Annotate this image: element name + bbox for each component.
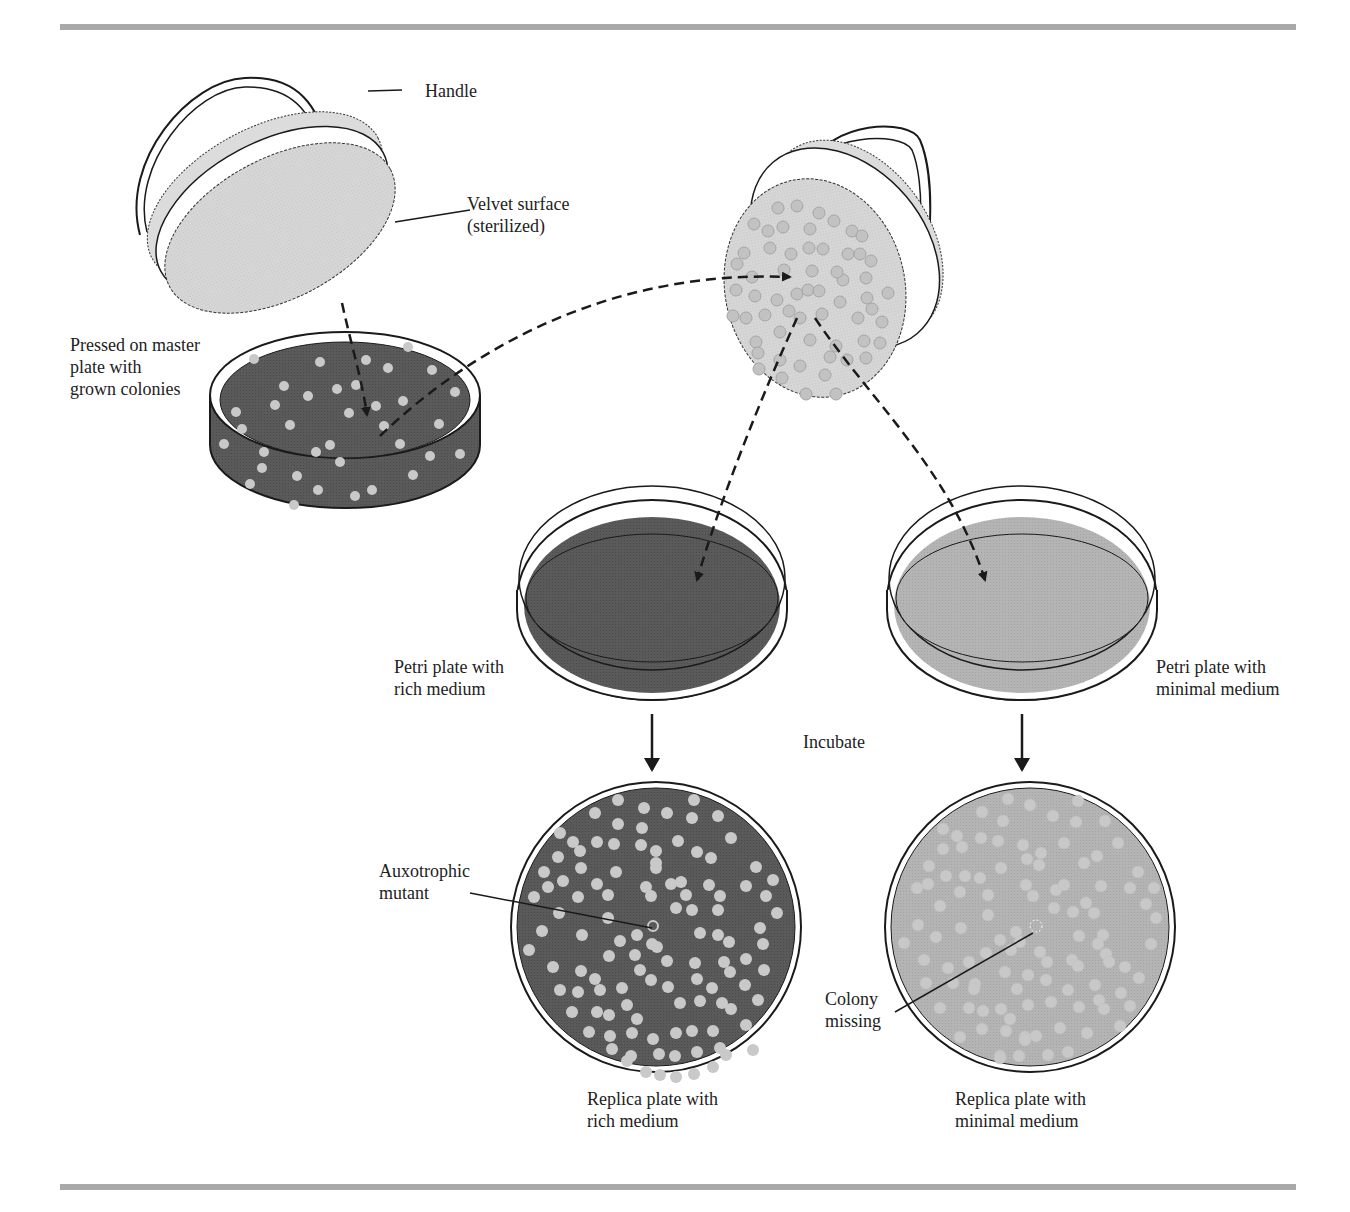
velvet-leader [395, 210, 470, 222]
petri-plate-rich [517, 486, 787, 700]
label-pressed-on-master: Pressed on master plate with grown colon… [70, 334, 200, 400]
label-replica-minimal: Replica plate with minimal medium [955, 1088, 1086, 1132]
label-replica-rich: Replica plate with rich medium [587, 1088, 718, 1132]
label-auxotrophic-mutant: Auxotrophic mutant [379, 860, 470, 904]
replica-plate-rich [511, 782, 801, 1083]
label-petri-minimal: Petri plate with minimal medium [1156, 656, 1280, 700]
petri-plate-minimal [887, 486, 1157, 700]
velvet-block-with-colonies [704, 107, 979, 414]
handle-leader [368, 90, 402, 91]
label-colony-missing: Colony missing [825, 988, 881, 1032]
label-handle: Handle [425, 80, 477, 102]
label-incubate: Incubate [803, 731, 865, 753]
label-petri-rich: Petri plate with rich medium [394, 656, 504, 700]
label-velvet-surface: Velvet surface (sterilized) [467, 193, 569, 237]
replica-plate-minimal [885, 782, 1175, 1072]
replica-plating-diagram [0, 0, 1350, 1212]
master-plate [210, 332, 480, 510]
velvet-block-sterile [119, 76, 423, 348]
